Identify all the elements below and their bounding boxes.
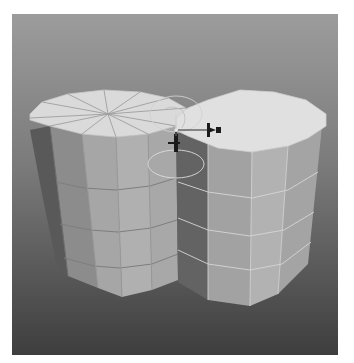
3d-viewport[interactable] xyxy=(12,14,338,355)
manipulator-center[interactable] xyxy=(174,128,177,131)
